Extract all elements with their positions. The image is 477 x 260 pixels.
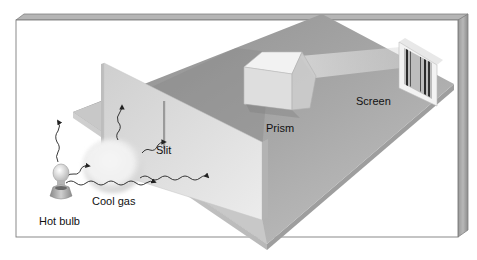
label-slit: Slit (156, 145, 171, 156)
label-hot-bulb: Hot bulb (39, 216, 80, 227)
diagram-canvas: Hot bulb Cool gas Slit Prism Screen (0, 0, 477, 260)
label-screen: Screen (356, 96, 391, 107)
label-cool-gas: Cool gas (92, 196, 135, 207)
cool-gas-cloud (83, 139, 143, 193)
prism (244, 52, 316, 118)
label-prism: Prism (266, 123, 294, 134)
